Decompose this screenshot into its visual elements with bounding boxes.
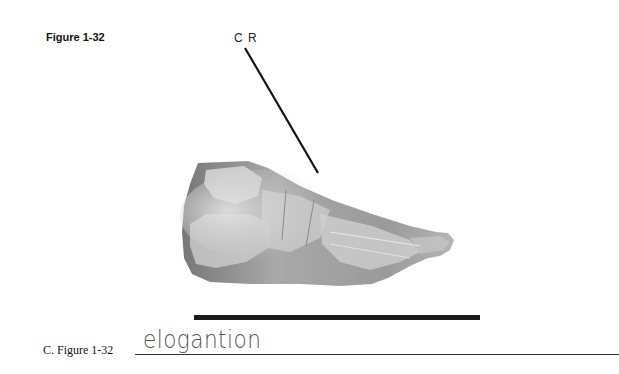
question-label: C. Figure 1-32: [43, 343, 113, 358]
answer-underline: [135, 354, 619, 355]
foot-xray-figure: [0, 0, 619, 374]
central-ray-line: [245, 48, 318, 173]
image-bar: [194, 315, 480, 320]
handwritten-answer[interactable]: elogantion: [143, 326, 261, 354]
